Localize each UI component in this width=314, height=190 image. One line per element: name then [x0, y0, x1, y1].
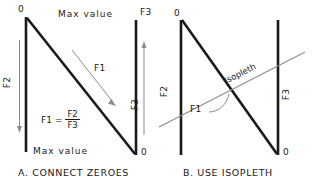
f3-direction-arrow	[142, 41, 147, 135]
f2-zero-label-a: 0	[18, 5, 24, 14]
formula-equals: =	[52, 115, 65, 125]
formula-denominator: F3	[66, 121, 78, 130]
formula-numerator: F2	[66, 110, 78, 119]
f3-max-value-label-a: Max value	[58, 10, 113, 19]
f1-diagonal-line-b	[182, 20, 277, 154]
panel-a-graphics	[0, 0, 157, 190]
f2-zero-label-b: 0	[174, 9, 180, 18]
f2-max-value-label-a: Max value	[33, 147, 88, 156]
f3-zero-label-b: 0	[283, 148, 289, 157]
f1-formula: F1 = F2 F3	[41, 110, 79, 130]
f2-direction-arrow	[17, 40, 22, 133]
f3-axis-name-right-a: F3	[131, 99, 140, 110]
f2-axis-name-a: F2	[3, 77, 12, 88]
formula-fraction: F2 F3	[66, 110, 78, 130]
f1-label-b: F1	[190, 105, 201, 114]
nomograph-figure: 0 Max value F3 F2 F3 F1 F1 = F2 F3 Max v…	[0, 0, 314, 190]
panel-a-caption: A. CONNECT ZEROES	[18, 167, 129, 178]
f2-axis-name-b: F2	[160, 86, 169, 97]
panel-use-isopleth: 0 F2 F3 F1 Isopleth 0 B. USE ISOPLETH	[157, 0, 314, 190]
panel-connect-zeroes: 0 Max value F3 F2 F3 F1 F1 = F2 F3 Max v…	[0, 0, 157, 190]
formula-lhs: F1	[41, 115, 52, 125]
f3-axis-name-a: F3	[140, 8, 151, 17]
f1-diagonal-line	[27, 18, 135, 154]
f3-zero-label-a: 0	[141, 148, 147, 157]
f1-direction-arrow	[72, 50, 116, 106]
panel-b-caption: B. USE ISOPLETH	[183, 167, 273, 178]
f3-axis-name-b: F3	[282, 89, 291, 100]
f1-label-a: F1	[94, 64, 105, 73]
